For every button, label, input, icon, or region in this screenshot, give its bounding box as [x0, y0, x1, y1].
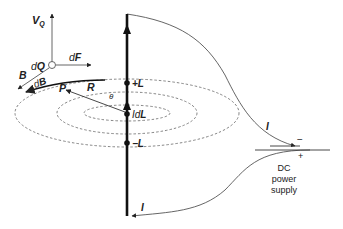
current-top-label: I: [266, 121, 269, 132]
df-label: dF: [69, 51, 82, 63]
idl-label: IdL: [132, 109, 146, 120]
plus-l-point: [124, 80, 130, 86]
p-label: P: [59, 82, 67, 94]
supply-label-line3: supply: [271, 185, 298, 195]
supply-label-line1: DC: [278, 163, 291, 173]
biot-savart-diagram: VQ dQ dF B dB P R θ +L IdL −L I I − + DC…: [0, 0, 343, 229]
theta-label: θ: [109, 92, 114, 101]
minus-l-label: −L: [132, 138, 144, 149]
current-bottom-label: I: [141, 202, 144, 213]
current-direction-arrow-icon: [123, 24, 131, 34]
supply-label-line2: power: [272, 174, 297, 184]
r-vector: [66, 90, 125, 112]
plus-terminal-label: +: [298, 151, 303, 161]
r-label: R: [87, 81, 95, 93]
db-label: dB: [32, 75, 48, 90]
b-label: B: [19, 69, 27, 81]
plus-l-label: +L: [132, 78, 144, 89]
minus-terminal-label: −: [297, 134, 303, 145]
dq-label: dQ: [31, 60, 45, 72]
minus-l-point: [124, 140, 130, 146]
dq-charge-icon: [49, 62, 56, 69]
idl-point: [124, 111, 130, 117]
vq-label: VQ: [32, 14, 45, 28]
